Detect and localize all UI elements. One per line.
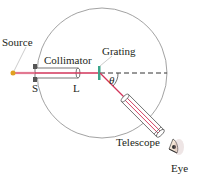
- grating-leader: [100, 56, 112, 66]
- telescope: [120, 93, 165, 138]
- label-source: Source: [2, 36, 33, 48]
- label-collimator: Collimator: [44, 54, 92, 66]
- label-lens: L: [73, 82, 80, 94]
- eye-icon: [169, 139, 184, 155]
- diagram-canvas: Source Collimator Grating S L θ Telescop…: [0, 0, 199, 183]
- source-leader: [14, 47, 26, 71]
- label-telescope: Telescope: [116, 136, 160, 148]
- label-eye: Eye: [171, 162, 188, 174]
- label-theta: θ: [109, 74, 115, 86]
- light-source: [11, 71, 16, 76]
- spectrometer-diagram: Source Collimator Grating S L θ Telescop…: [0, 0, 199, 183]
- label-slit: S: [32, 82, 38, 94]
- label-grating: Grating: [102, 45, 136, 57]
